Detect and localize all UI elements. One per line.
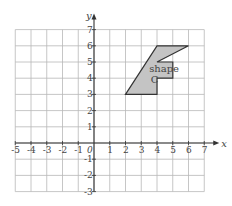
x-tick-label: -5 <box>11 145 20 155</box>
x-tick-label: -2 <box>59 145 68 155</box>
shape-c: shapeC <box>126 46 189 95</box>
coordinate-grid-diagram: shapeC xy -5-4-3-2-112345677654321-1-2-3… <box>0 0 232 206</box>
shape-label: shape <box>149 63 179 74</box>
x-tick-label: 7 <box>202 145 208 155</box>
y-tick-label: 1 <box>87 122 93 132</box>
origin-label: 0 <box>87 145 93 155</box>
y-tick-label: 2 <box>87 106 93 116</box>
y-axis-arrow-icon <box>92 14 97 20</box>
x-axis-label: x <box>221 138 227 149</box>
y-tick-label: -3 <box>84 187 93 197</box>
x-tick-label: -4 <box>27 145 36 155</box>
y-axis-label: y <box>85 10 92 21</box>
shape-label-letter: C <box>151 74 159 85</box>
y-tick-label: 3 <box>87 89 93 99</box>
x-tick-label: 3 <box>139 145 145 155</box>
y-tick-label: -1 <box>84 154 93 164</box>
y-tick-label: -2 <box>84 170 93 180</box>
x-tick-label: -3 <box>43 145 52 155</box>
x-tick-label: 4 <box>155 145 161 155</box>
x-tick-label: 2 <box>123 145 129 155</box>
x-tick-label: 6 <box>186 145 192 155</box>
y-tick-label: 4 <box>87 73 93 83</box>
x-axis-arrow-icon <box>213 141 219 146</box>
grid-lines <box>15 30 204 192</box>
y-tick-label: 5 <box>87 57 93 67</box>
y-tick-label: 6 <box>87 41 93 51</box>
x-tick-label: -1 <box>74 145 83 155</box>
y-tick-label: 7 <box>87 25 93 35</box>
grid-plot: shapeC xy -5-4-3-2-112345677654321-1-2-3… <box>0 0 232 206</box>
x-tick-label: 1 <box>107 145 113 155</box>
x-tick-label: 5 <box>170 145 176 155</box>
